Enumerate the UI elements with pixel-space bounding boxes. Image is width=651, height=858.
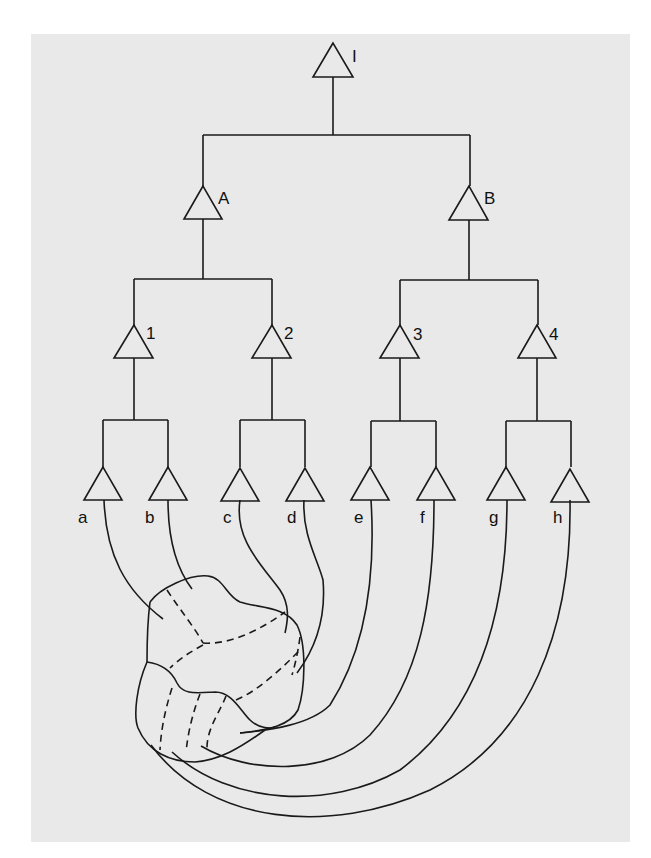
curve-b <box>168 500 192 589</box>
triangle-icon <box>84 467 122 500</box>
node-4: 4 <box>506 325 571 467</box>
node-label: 2 <box>284 324 293 343</box>
leaf-label: d <box>287 508 296 527</box>
node-label: A <box>218 189 230 208</box>
node-A: A <box>134 186 272 325</box>
triangle-icon <box>417 467 455 500</box>
curve-d <box>297 500 324 673</box>
triangle-icon <box>551 469 589 502</box>
node-B: B <box>400 186 538 325</box>
node-label: 4 <box>549 325 558 344</box>
tree-diagram: I A B 1 2 3 <box>0 0 651 858</box>
curve-e <box>240 500 372 733</box>
node-1: 1 <box>103 324 168 467</box>
region-outline-inner <box>147 662 275 728</box>
triangle-icon <box>184 186 222 219</box>
curve-c <box>239 500 287 633</box>
leaf-label: f <box>420 508 425 527</box>
region-divider <box>236 650 300 700</box>
curve-g <box>172 500 507 796</box>
triangle-icon <box>449 186 488 220</box>
node-label: B <box>484 189 495 208</box>
triangle-icon <box>149 467 187 500</box>
region-map <box>136 576 304 762</box>
leaf-label: e <box>354 508 363 527</box>
region-divider <box>167 590 203 643</box>
triangle-icon <box>221 468 259 501</box>
curve-h <box>151 500 570 817</box>
triangle-icon <box>351 467 389 500</box>
leaf-nodes: a b c d e f g h <box>78 467 589 527</box>
triangle-icon <box>286 468 324 501</box>
region-outline-lower <box>136 662 265 762</box>
node-label: I <box>352 47 357 66</box>
region-divider <box>207 696 226 748</box>
node-label: 1 <box>146 324 155 343</box>
region-divider <box>203 612 285 643</box>
triangle-icon <box>487 467 525 500</box>
region-divider <box>170 645 203 668</box>
node-root: I <box>203 43 470 186</box>
leaf-label: g <box>489 508 498 527</box>
leaf-label: h <box>553 508 562 527</box>
region-outline-left-upper <box>147 602 150 662</box>
region-outline-upper-right <box>150 576 304 733</box>
region-divider <box>160 688 172 750</box>
leaf-label: c <box>223 508 232 527</box>
triangle-icon <box>313 43 353 77</box>
node-label: 3 <box>413 325 422 344</box>
node-2: 2 <box>240 324 305 467</box>
connection-curves <box>104 500 570 817</box>
leaf-label: b <box>145 508 154 527</box>
leaf-label: a <box>78 508 88 527</box>
node-3: 3 <box>371 325 436 467</box>
region-divider <box>186 694 200 752</box>
